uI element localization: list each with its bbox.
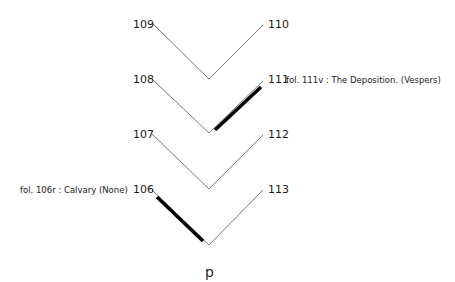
leaf-label-109: 109	[133, 18, 154, 31]
quire-label: p	[205, 264, 214, 280]
bifolium-109-110: 109 110	[133, 18, 289, 79]
highlight-leaf-106	[157, 197, 203, 241]
leaf-label-113: 113	[268, 183, 289, 196]
annotation-leaf-106: fol. 106r : Calvary (None)	[20, 185, 128, 195]
leaf-label-110: 110	[268, 18, 289, 31]
highlight-leaf-111	[215, 87, 261, 130]
leaf-label-112: 112	[268, 128, 289, 141]
bifolium-line	[152, 79, 263, 133]
bifolium-107-112: 107 112	[133, 128, 289, 189]
annotation-leaf-111: fol. 111v : The Deposition. (Vespers)	[286, 75, 441, 85]
bifolium-line	[152, 23, 263, 79]
bifolium-106-113: 106 113 fol. 106r : Calvary (None)	[20, 183, 289, 245]
leaf-label-107: 107	[133, 128, 154, 141]
bifolium-line	[152, 190, 263, 245]
quire-diagram: 109 110 108 111 fol. 111v : The Depositi…	[0, 0, 455, 282]
leaf-label-108: 108	[133, 73, 154, 86]
bifolium-line	[152, 134, 263, 189]
bifolium-108-111: 108 111 fol. 111v : The Deposition. (Ves…	[133, 73, 441, 133]
leaf-label-106: 106	[133, 183, 154, 196]
